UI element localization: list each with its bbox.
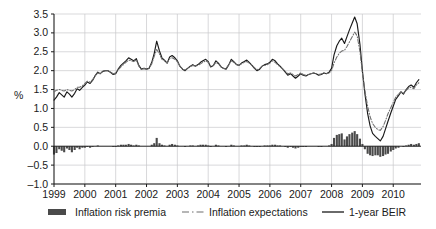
x-tick-label: 2007 [289, 188, 313, 200]
x-tick-label: 2004 [197, 188, 221, 200]
x-tick-label: 2001 [104, 188, 128, 200]
x-tick-label: 2000 [73, 188, 97, 200]
legend-label: Inflation risk premia [75, 206, 166, 218]
x-tick-label: 2010 [382, 188, 406, 200]
y-tick-label: 2.5 [33, 45, 48, 57]
y-axis-title: % [14, 89, 23, 101]
y-tick-label: 2.0 [33, 64, 48, 76]
inflation-risk-premia-chart: 3.53.02.52.01.51.00.50.0–0.5–1.0 1999200… [0, 0, 436, 229]
x-tick-label: 1999 [42, 188, 66, 200]
legend-label: Inflation expectations [209, 206, 308, 218]
y-tick-label: 0.0 [33, 140, 48, 152]
y-tick-label: –0.5 [28, 159, 49, 171]
y-tick-label: 0.5 [33, 121, 48, 133]
x-tick-label: 2002 [135, 188, 159, 200]
x-tick-label: 2009 [351, 188, 375, 200]
chart-legend: Inflation risk premiaInflation expectati… [48, 206, 407, 218]
y-tick-label: 1.0 [33, 102, 48, 114]
x-tick-label: 2003 [166, 188, 190, 200]
legend-label: 1-year BEIR [349, 206, 407, 218]
y-tick-label: 3.0 [33, 26, 48, 38]
x-tick-label: 2006 [258, 188, 282, 200]
x-tick-label: 2008 [320, 188, 344, 200]
y-tick-label: 3.5 [33, 8, 48, 20]
y-tick-label: 1.5 [33, 83, 48, 95]
x-tick-label: 2005 [227, 188, 251, 200]
